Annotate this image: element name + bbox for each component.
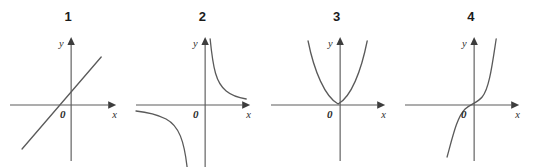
x-axis-arrowhead-4 <box>511 101 519 109</box>
panel-number-4: 4 <box>404 9 537 24</box>
y-axis-label-2: y <box>192 38 198 49</box>
x-axis-arrowhead-3 <box>377 101 385 109</box>
origin-label-3: 0 <box>327 108 333 120</box>
y-axis-label-1: y <box>58 38 64 49</box>
graph-panel-2: 2 y x 0 <box>134 7 268 167</box>
graph-panel-1: 1 y x 0 <box>0 7 134 167</box>
graph-panel-3: 3 y x 0 <box>269 7 403 167</box>
graph-svg-3: y x 0 <box>269 23 403 167</box>
graph-svg-2: y x 0 <box>134 23 268 167</box>
x-axis-label-3: x <box>380 109 386 120</box>
graph-panel-row: 1 y x 0 2 <box>0 7 537 167</box>
hyperbola-branch-left-2 <box>136 111 187 167</box>
y-axis-arrowhead-3 <box>336 37 343 45</box>
plot-area-2: y x 0 <box>134 23 268 167</box>
y-axis-label-3: y <box>327 38 333 49</box>
x-axis-arrowhead-2 <box>242 101 250 109</box>
origin-label-4: 0 <box>461 108 467 120</box>
figure-root: 1 y x 0 2 <box>0 0 537 167</box>
x-axis-label-2: x <box>245 109 251 120</box>
cut-off-heading-text <box>0 0 537 7</box>
origin-label-2: 0 <box>193 108 199 120</box>
graph-svg-1: y x 0 <box>0 23 134 167</box>
x-axis-arrowhead-1 <box>108 101 116 109</box>
graph-panel-4: 4 y x 0 <box>403 7 537 167</box>
plot-area-4: y x 0 <box>403 23 537 167</box>
origin-label-1: 0 <box>60 108 66 120</box>
line-curve-1 <box>22 57 101 149</box>
hyperbola-branch-right-2 <box>210 39 246 99</box>
x-axis-label-4: x <box>514 109 520 120</box>
panel-number-2: 2 <box>135 9 269 24</box>
y-axis-label-4: y <box>461 38 467 49</box>
x-axis-label-1: x <box>111 109 117 120</box>
y-axis-arrowhead-4 <box>470 37 477 45</box>
plot-area-1: y x 0 <box>0 23 134 167</box>
y-axis-arrowhead-1 <box>67 37 74 45</box>
parabola-curve-3 <box>308 41 367 104</box>
graph-svg-4: y x 0 <box>403 23 537 167</box>
cubic-curve-4 <box>447 39 496 157</box>
y-axis-arrowhead-2 <box>202 37 209 45</box>
panel-number-3: 3 <box>270 9 404 24</box>
plot-area-3: y x 0 <box>269 23 403 167</box>
panel-number-1: 1 <box>1 9 135 24</box>
